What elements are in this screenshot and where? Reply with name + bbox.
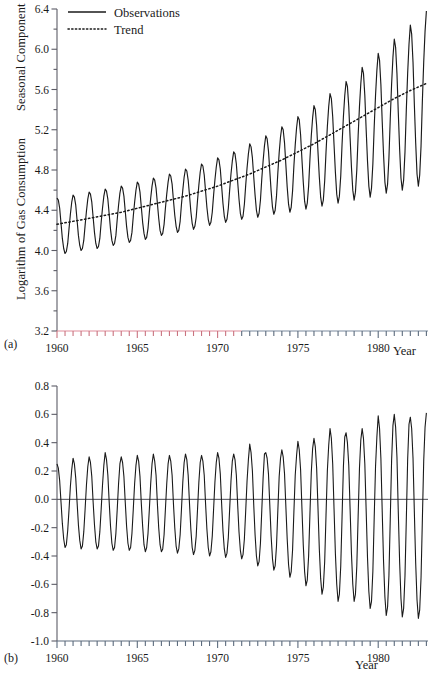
panel-b-y-axis-title: Seasonal Component — [14, 3, 29, 111]
panel-a-gas-consumption: Logarithm of Gas Consumption Year (a) 3.… — [0, 0, 437, 366]
panel-a-xtick-label: 1965 — [126, 342, 149, 354]
panel-a-ytick-label: 4.4 — [35, 204, 50, 216]
panel-b-tag: (b) — [4, 651, 18, 666]
panel-b-ytick-label: -0.8 — [31, 607, 49, 619]
panel-a-xtick-label: 1980 — [367, 342, 390, 354]
legend-label-observations: Observations — [114, 6, 180, 20]
panel-b-plot: -1.0-0.8-0.6-0.4-0.20.00.20.40.60.819601… — [0, 366, 437, 677]
panel-a-ytick-label: 6.4 — [35, 3, 50, 15]
panel-b-ytick-label: 0.4 — [35, 437, 50, 449]
panel-a-xtick-label: 1975 — [286, 342, 309, 354]
panel-a-ytick-label: 6.0 — [35, 43, 50, 55]
panel-a-ytick-label: 4.8 — [35, 164, 50, 176]
panel-a-plot: 3.23.64.04.44.85.25.66.06.41960196519701… — [0, 0, 437, 366]
panel-b-ytick-label: -1.0 — [31, 635, 49, 647]
panel-a-x-axis-title: Year — [393, 344, 416, 359]
panel-b-ytick-label: -0.6 — [31, 578, 49, 590]
panel-b-xtick-label: 1960 — [46, 652, 69, 664]
panel-a-ytick-label: 5.6 — [35, 84, 50, 96]
panel-a-ytick-label: 3.2 — [35, 325, 50, 337]
panel-b-ytick-label: -0.4 — [31, 550, 49, 562]
panel-a-ytick-label: 5.2 — [35, 124, 50, 136]
panel-a-ytick-label: 4.0 — [35, 245, 50, 257]
panel-b-ytick-label: 0.0 — [35, 493, 50, 505]
panel-a-xtick-label: 1960 — [46, 342, 69, 354]
panel-a-y-axis-title: Logarithm of Gas Consumption — [14, 138, 29, 300]
panel-a-ytick-label: 3.6 — [35, 285, 50, 297]
panel-b-seasonal-component: Seasonal Component Year (b) -1.0-0.8-0.6… — [0, 366, 437, 677]
panel-a-tag: (a) — [4, 337, 17, 352]
panel-b-ytick-label: 0.8 — [35, 380, 50, 392]
panel-b-x-axis-title: Year — [355, 658, 378, 673]
panel-b-ytick-label: 0.6 — [35, 408, 50, 420]
panel-a-xtick-label: 1970 — [206, 342, 229, 354]
panel-b-xtick-label: 1970 — [206, 652, 229, 664]
legend-label-trend: Trend — [114, 23, 144, 37]
panel-b-ytick-label: -0.2 — [31, 522, 49, 534]
panel-b-seasonal-line — [57, 413, 426, 618]
panel-a-trend-line — [57, 83, 426, 224]
panel-b-xtick-label: 1975 — [286, 652, 309, 664]
panel-b-xtick-label: 1965 — [126, 652, 149, 664]
panel-b-ytick-label: 0.2 — [35, 465, 50, 477]
panel-a-observations-line — [57, 11, 426, 254]
